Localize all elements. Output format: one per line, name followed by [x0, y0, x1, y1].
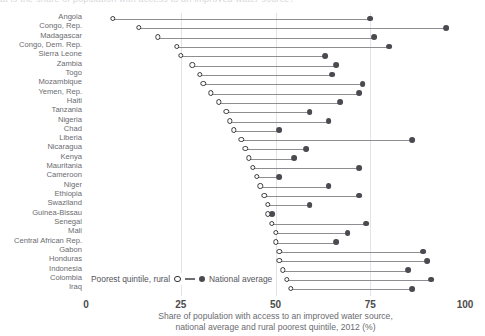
tick-label-0: 0 [83, 299, 89, 310]
category-label-central-african-rep: Central African Rep. [0, 236, 82, 245]
poorest-quintile-point[interactable] [201, 81, 206, 86]
category-label-guinea-bissau: Guinea-Bissau [0, 208, 82, 217]
national-average-point[interactable] [276, 127, 282, 133]
national-average-point[interactable] [420, 249, 426, 255]
connector-line [139, 28, 446, 29]
national-average-point[interactable] [409, 286, 415, 292]
poorest-quintile-point[interactable] [189, 62, 194, 67]
poorest-quintile-point[interactable] [254, 174, 259, 179]
poorest-quintile-point[interactable] [277, 249, 282, 254]
category-label-nicaragua: Nicaragua [0, 142, 82, 151]
poorest-quintile-point[interactable] [231, 127, 236, 132]
poorest-quintile-point[interactable] [178, 53, 183, 58]
poorest-quintile-point[interactable] [277, 258, 282, 263]
poorest-quintile-point[interactable] [246, 155, 251, 160]
category-label-kenya: Kenya [0, 152, 82, 161]
poorest-quintile-point[interactable] [288, 286, 293, 291]
category-label-gabon: Gabon [0, 245, 82, 254]
connector-line [192, 66, 336, 67]
poorest-quintile-point[interactable] [136, 25, 141, 30]
category-label-congo-rep: Congo, Rep. [0, 21, 82, 30]
category-label-mozambique: Mozambique [0, 77, 82, 86]
poorest-quintile-point[interactable] [273, 230, 278, 235]
national-average-point[interactable] [424, 258, 430, 264]
poorest-quintile-point[interactable] [208, 90, 213, 95]
national-average-point[interactable] [428, 277, 434, 283]
category-label-swaziland: Swaziland [0, 198, 82, 207]
connector-line [260, 187, 328, 188]
national-average-point[interactable] [356, 165, 362, 171]
x-axis-caption: Share of population with access to an im… [86, 311, 465, 333]
connector-line [279, 252, 423, 253]
connector-line [253, 168, 359, 169]
poorest-quintile-point[interactable] [155, 34, 160, 39]
connector-line [249, 159, 294, 160]
filled-circle-icon [199, 276, 205, 282]
national-average-point[interactable] [405, 267, 411, 273]
connector-line [283, 271, 408, 272]
national-average-point[interactable] [307, 202, 313, 208]
tick-label-100: 100 [457, 299, 474, 310]
connector-line [276, 233, 348, 234]
national-average-point[interactable] [360, 81, 366, 87]
national-average-point[interactable] [326, 183, 332, 189]
national-average-point[interactable] [333, 239, 339, 245]
connector-line [276, 243, 337, 244]
tick-label-25: 25 [175, 299, 186, 310]
national-average-point[interactable] [356, 90, 362, 96]
poorest-quintile-point[interactable] [197, 72, 202, 77]
category-label-senegal: Senegal [0, 217, 82, 226]
category-label-colombia: Colombia [0, 273, 82, 282]
poorest-quintile-point[interactable] [216, 99, 221, 104]
category-label-tanzania: Tanzania [0, 105, 82, 114]
category-label-liberia: Liberia [0, 133, 82, 142]
national-average-point[interactable] [409, 137, 415, 143]
poorest-quintile-point[interactable] [224, 109, 229, 114]
national-average-point[interactable] [386, 44, 392, 50]
connector-line [219, 103, 340, 104]
connector-line [158, 38, 374, 39]
category-label-congo-dem-rep: Congo, Dem. Rep. [0, 40, 82, 49]
connector-line [268, 205, 310, 206]
poorest-quintile-point[interactable] [269, 221, 274, 226]
national-average-point[interactable] [443, 25, 449, 31]
poorest-quintile-point[interactable] [250, 165, 255, 170]
national-average-point[interactable] [345, 230, 351, 236]
national-average-point[interactable] [326, 118, 332, 124]
national-average-point[interactable] [333, 62, 339, 68]
poorest-quintile-point[interactable] [227, 118, 232, 123]
poorest-quintile-point[interactable] [258, 183, 263, 188]
connector-line [113, 19, 371, 20]
poorest-quintile-point[interactable] [110, 16, 115, 21]
category-label-angola: Angola [0, 12, 82, 21]
x-axis-line [86, 296, 465, 297]
poorest-quintile-point[interactable] [242, 146, 247, 151]
category-label-ethiopia: Ethiopia [0, 189, 82, 198]
national-average-point[interactable] [329, 72, 335, 78]
dumbbell-chart: at is the share of population with acces… [0, 0, 485, 336]
open-circle-icon [174, 276, 180, 282]
national-average-point[interactable] [367, 16, 373, 22]
poorest-quintile-point[interactable] [273, 239, 278, 244]
national-average-point[interactable] [337, 99, 343, 105]
connector-line [241, 140, 412, 141]
connector-line [177, 47, 389, 48]
poorest-quintile-point[interactable] [280, 267, 285, 272]
national-average-point[interactable] [364, 221, 370, 227]
category-label-mauritania: Mauritania [0, 161, 82, 170]
national-average-point[interactable] [371, 34, 377, 40]
poorest-quintile-point[interactable] [265, 202, 270, 207]
connector-line [226, 112, 309, 113]
poorest-quintile-point[interactable] [174, 44, 179, 49]
national-average-point[interactable] [276, 174, 282, 180]
national-average-point[interactable] [303, 146, 309, 152]
national-average-point[interactable] [322, 53, 328, 59]
poorest-quintile-point[interactable] [284, 277, 289, 282]
national-average-point[interactable] [307, 109, 313, 115]
connector-line [291, 289, 412, 290]
national-average-point[interactable] [292, 155, 298, 161]
national-average-point[interactable] [356, 193, 362, 199]
poorest-quintile-point[interactable] [239, 137, 244, 142]
poorest-quintile-point[interactable] [261, 193, 266, 198]
category-label-yemen-rep: Yemen, Rep. [0, 87, 82, 96]
